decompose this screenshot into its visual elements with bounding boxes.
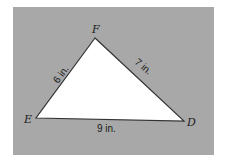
vertex-label-d: D (186, 116, 196, 129)
triangle-diagram: F E D 6 in. 7 in. 9 in. (0, 0, 225, 164)
vertex-label-f: F (91, 23, 100, 36)
vertex-label-e: E (23, 113, 32, 126)
side-label-ed: 9 in. (97, 123, 116, 134)
